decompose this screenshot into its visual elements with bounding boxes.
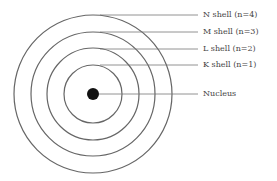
label-l-shell: L shell (n=2): [203, 44, 256, 54]
label-n-shell: N shell (n=4): [203, 10, 257, 20]
label-k-shell: K shell (n=1): [203, 60, 256, 70]
label-nucleus: Nucleus: [203, 89, 236, 99]
nucleus: [87, 88, 99, 100]
label-m-shell: M shell (n=3): [203, 27, 259, 37]
